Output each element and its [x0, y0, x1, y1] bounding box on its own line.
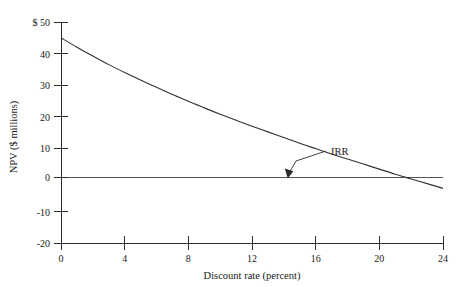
y-tick-label-0: 0 — [45, 172, 50, 183]
y-tick-label-neg20: -20 — [37, 238, 50, 249]
y-tick-label-10: 10 — [40, 143, 50, 154]
irr-label: IRR — [331, 146, 349, 157]
x-tick-label-20: 20 — [374, 253, 384, 264]
y-axis-title: NPV ($ millions) — [8, 100, 20, 173]
y-tick-label-30: 30 — [40, 80, 50, 91]
x-axis-title: Discount rate (percent) — [204, 270, 301, 282]
x-tick-label-24: 24 — [438, 253, 448, 264]
x-tick-label-16: 16 — [311, 253, 321, 264]
y-tick-label-50: $ 50 — [33, 17, 51, 28]
x-tick-label-12: 12 — [247, 253, 257, 264]
y-tick-label-20: 20 — [40, 112, 50, 123]
npv-profile-chart: $ 50 40 30 20 10 0 -10 -20 0 4 8 12 16 2… — [0, 0, 460, 287]
y-tick-label-40: 40 — [40, 49, 50, 60]
y-tick-label-neg10: -10 — [37, 207, 50, 218]
chart-canvas: $ 50 40 30 20 10 0 -10 -20 0 4 8 12 16 2… — [0, 0, 460, 287]
x-tick-label-8: 8 — [186, 253, 191, 264]
x-tick-label-0: 0 — [59, 253, 64, 264]
x-tick-label-4: 4 — [122, 253, 127, 264]
